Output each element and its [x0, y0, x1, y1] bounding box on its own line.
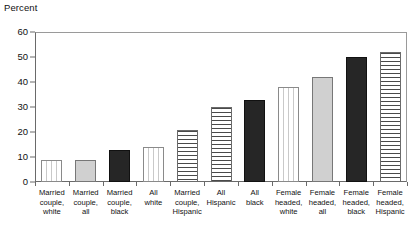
x-tick-label: All white	[136, 188, 170, 207]
bar	[380, 52, 401, 182]
y-tick-label: 60	[17, 27, 28, 37]
bar	[346, 57, 367, 182]
bar	[109, 150, 130, 183]
x-tick-label: Married couple, white	[35, 188, 69, 217]
y-tick-label: 50	[17, 52, 28, 62]
y-tick-label: 20	[17, 127, 28, 137]
x-tick-label: All Hispanic	[204, 188, 238, 207]
x-tick-label: All black	[238, 188, 272, 207]
bar	[177, 130, 198, 183]
x-tick-label: Married couple, Hispanic	[170, 188, 204, 217]
bar-chart: Percent 6050403020100 Married couple, wh…	[0, 0, 413, 232]
x-axis-ticks	[35, 182, 407, 187]
x-tick-mark	[170, 182, 171, 186]
bar	[278, 87, 299, 182]
x-tick-mark	[136, 182, 137, 186]
y-tick-label: 40	[17, 77, 28, 87]
x-tick-label: Female headed, Hispanic	[373, 188, 407, 217]
x-tick-mark	[306, 182, 307, 186]
x-tick-mark	[35, 182, 36, 186]
x-tick-label: Female headed, black	[339, 188, 373, 217]
x-axis-labels: Married couple, whiteMarried couple, all…	[35, 188, 407, 232]
bar	[244, 100, 265, 183]
x-tick-mark	[69, 182, 70, 186]
y-tick-label: 30	[17, 102, 28, 112]
x-tick-label: Married couple, black	[103, 188, 137, 217]
bars-container	[35, 32, 407, 182]
bar	[211, 107, 232, 182]
x-tick-mark	[272, 182, 273, 186]
x-tick-label: Female headed, all	[306, 188, 340, 217]
bar	[143, 147, 164, 182]
x-tick-mark	[339, 182, 340, 186]
bar	[312, 77, 333, 182]
x-tick-mark	[407, 182, 408, 186]
x-tick-mark	[103, 182, 104, 186]
y-tick-label: 0	[23, 177, 28, 187]
y-axis: 6050403020100	[0, 0, 35, 232]
x-tick-mark	[373, 182, 374, 186]
bar	[41, 160, 62, 183]
x-tick-label: Married couple, all	[69, 188, 103, 217]
y-tick-label: 10	[17, 152, 28, 162]
x-tick-mark	[238, 182, 239, 186]
x-tick-label: Female headed, white	[272, 188, 306, 217]
bar	[75, 160, 96, 183]
x-tick-mark	[204, 182, 205, 186]
